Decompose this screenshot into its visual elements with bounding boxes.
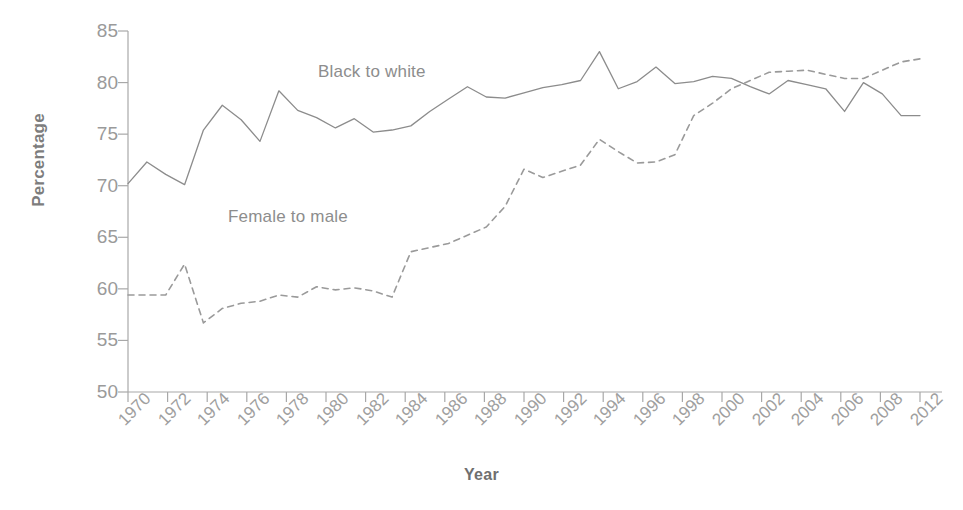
chart-container: Percentage Year 8580757065605550 1970197…: [0, 0, 963, 510]
x-axis-ticks: [128, 392, 920, 402]
series-lines: [128, 52, 920, 323]
y-axis-ticks: [118, 31, 128, 392]
series-annotation-black-to-white: Black to white: [318, 62, 426, 82]
series-line-black-to-white: [128, 52, 920, 185]
series-line-female-to-male: [128, 59, 920, 323]
plot-area: [0, 0, 963, 510]
series-annotation-female-to-male: Female to male: [228, 207, 348, 227]
